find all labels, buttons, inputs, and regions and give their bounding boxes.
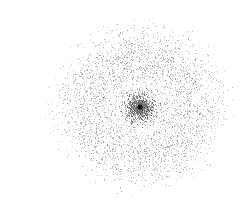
scatter-plot-canvas — [40, 16, 245, 201]
scatter-plot-figure: Rotationally symmetric radial point clou… — [40, 16, 245, 201]
